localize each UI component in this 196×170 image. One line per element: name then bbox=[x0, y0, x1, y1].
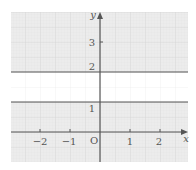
x-axis-label: x bbox=[183, 133, 189, 144]
x-tick-label: 2 bbox=[156, 136, 162, 147]
y-axis-label: y bbox=[89, 9, 96, 20]
x-tick-label: 1 bbox=[127, 136, 133, 147]
origin-label: O bbox=[90, 135, 98, 146]
x-tick-label: −2 bbox=[33, 136, 48, 147]
y-tick-label: 1 bbox=[89, 103, 95, 114]
coordinate-plane: −2 −1 1 2 1 2 3 O x y bbox=[0, 0, 196, 170]
x-tick-label: −1 bbox=[62, 136, 77, 147]
y-tick-label: 3 bbox=[89, 37, 95, 48]
y-tick-label: 2 bbox=[89, 61, 95, 72]
